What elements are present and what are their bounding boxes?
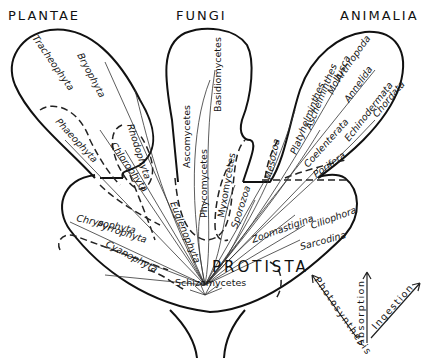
label-absorption: Absorption: [355, 280, 366, 346]
label-cyanophyta: Cyanophyta: [104, 238, 160, 275]
trunk-outline: [170, 310, 245, 358]
label-mesozoa: Mesozoa: [262, 137, 281, 180]
label-ascomycetes: Ascomycetes: [181, 105, 192, 168]
label-sarcodina: Sarcodina: [299, 229, 348, 252]
label-ingestion: Ingestion: [369, 281, 416, 331]
phylogeny-svg: PLANTAE FUNGI ANIMALIA PROTISTA Tracheop…: [0, 0, 431, 360]
kingdom-label-protista: PROTISTA: [212, 258, 309, 276]
label-basidiomycetes: Basidiomycetes: [212, 37, 223, 112]
nutrition-arrows: [312, 272, 420, 343]
label-bryophyta: Bryophyta: [75, 51, 108, 100]
kingdom-label-fungi: FUNGI: [176, 8, 227, 23]
kingdom-label-plantae: PLANTAE: [8, 8, 80, 23]
five-kingdom-diagram: PLANTAE FUNGI ANIMALIA PROTISTA Tracheop…: [0, 0, 431, 360]
label-phycomycetes: Phycomycetes: [198, 149, 209, 218]
label-schizomycetes: Schizomycetes: [175, 277, 246, 288]
label-phaeophyta: Phaeophyta: [54, 116, 101, 165]
label-tracheophyta: Tracheophyta: [30, 33, 76, 93]
kingdom-label-animalia: ANIMALIA: [340, 8, 419, 23]
fungi-outline: [166, 29, 253, 182]
